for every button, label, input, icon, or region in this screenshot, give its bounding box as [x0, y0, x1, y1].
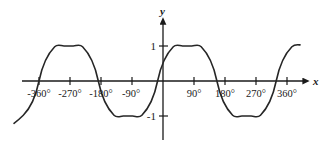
x-tick-label-360: 360° — [277, 88, 297, 99]
y-axis-label: y — [158, 5, 165, 17]
y-tick-label-neg1: -1 — [147, 110, 156, 122]
x-tick-label-neg270: -270° — [58, 88, 81, 99]
x-tick-label-neg360: -360° — [27, 88, 50, 99]
y-tick-label-pos1: 1 — [151, 40, 157, 52]
x-axis-label: x — [312, 75, 319, 87]
x-tick-label-180: 180° — [215, 88, 235, 99]
x-tick-label-270: 270° — [246, 88, 266, 99]
sine-curve-figure: x y -360° -270° -180° -90° 90° 180° 270°… — [0, 0, 328, 152]
plot-area: x y -360° -270° -180° -90° 90° 180° 270°… — [0, 0, 328, 152]
sine-curve-path — [14, 45, 300, 124]
x-tick-label-neg90: -90° — [122, 88, 140, 99]
x-tick-label-neg180: -180° — [89, 88, 112, 99]
x-tick-label-90: 90° — [187, 88, 202, 99]
